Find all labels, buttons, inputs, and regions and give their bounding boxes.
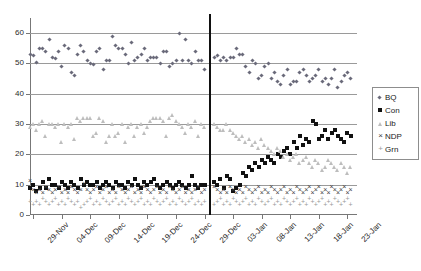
x-tick-label: 04-Dec <box>75 221 99 245</box>
legend-label: Con <box>385 106 400 115</box>
y-tick-label: 60 <box>4 29 24 37</box>
legend-label: Lib <box>385 119 396 128</box>
legend-label: BQ <box>385 93 397 102</box>
cross-marker-icon: × <box>376 132 385 141</box>
gridline <box>30 94 357 95</box>
legend-item-ndp[interactable]: ×NDP <box>376 130 416 143</box>
x-tick-label: 03-Jan <box>246 221 269 244</box>
x-axis <box>30 214 357 215</box>
x-tick-label: 18-Jan <box>332 221 355 244</box>
gridline <box>30 124 357 125</box>
gridline <box>30 33 357 34</box>
x-tick <box>347 215 348 219</box>
legend-item-grn[interactable]: +Grn <box>376 143 416 156</box>
x-tick-label: 24-Dec <box>190 221 214 245</box>
y-tick <box>26 33 30 34</box>
x-tick <box>262 215 263 219</box>
plus-marker-icon: + <box>376 145 385 154</box>
y-tick <box>26 154 30 155</box>
x-tick <box>205 215 206 219</box>
chart-legend: BQConLib×NDP+Grn <box>372 87 419 160</box>
y-tick-label: 50 <box>4 59 24 67</box>
legend-item-con[interactable]: Con <box>376 104 416 117</box>
y-tick-label: 10 <box>4 181 24 189</box>
y-tick-label: 20 <box>4 150 24 158</box>
year-divider-line <box>209 14 211 215</box>
y-tick-label: 0 <box>4 211 24 219</box>
y-tick-label: 40 <box>4 90 24 98</box>
x-tick-label: 19-Dec <box>161 221 185 245</box>
x-tick-label: 08-Jan <box>275 221 298 244</box>
x-tick <box>33 215 34 219</box>
x-tick-label: 29-Nov <box>47 221 71 245</box>
y-tick <box>26 94 30 95</box>
y-tick <box>26 63 30 64</box>
plot-area: 0102030405060 29-Nov04-Dec09-Dec14-Dec19… <box>30 18 357 215</box>
x-tick <box>62 215 63 219</box>
x-tick <box>176 215 177 219</box>
x-tick <box>233 215 234 219</box>
chart-root: 0102030405060 29-Nov04-Dec09-Dec14-Dec19… <box>0 0 421 271</box>
x-tick-label: 09-Dec <box>104 221 128 245</box>
x-tick <box>290 215 291 219</box>
legend-label: Grn <box>385 145 398 154</box>
y-tick <box>26 215 30 216</box>
x-tick-label: 29-Dec <box>218 221 242 245</box>
square-marker-icon <box>376 106 385 115</box>
legend-item-lib[interactable]: Lib <box>376 117 416 130</box>
legend-item-bq[interactable]: BQ <box>376 91 416 104</box>
triangle-marker-icon <box>376 119 385 128</box>
y-tick-label: 30 <box>4 120 24 128</box>
x-tick <box>147 215 148 219</box>
diamond-marker-icon <box>376 93 385 102</box>
gridline <box>30 154 357 155</box>
x-tick <box>119 215 120 219</box>
x-tick <box>319 215 320 219</box>
x-tick-label: 13-Jan <box>303 221 326 244</box>
x-tick <box>90 215 91 219</box>
x-tick-label: 23-Jan <box>361 221 384 244</box>
legend-label: NDP <box>385 132 402 141</box>
x-tick-label: 14-Dec <box>132 221 156 245</box>
